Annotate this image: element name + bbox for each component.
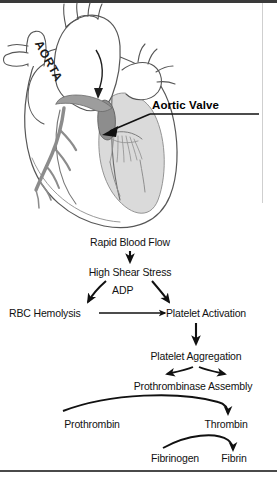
node-prothrombin: Prothrombin	[64, 418, 120, 430]
node-rapid-blood-flow: Rapid Blood Flow	[90, 236, 170, 248]
node-platelet-activation: Platelet Activation	[166, 307, 246, 319]
edge-prothrombin-to-thrombin	[63, 395, 228, 414]
edge-shear-to-activation	[152, 281, 169, 302]
node-rbc-hemolysis: RBC Hemolysis	[9, 307, 81, 319]
node-prothrombinase-assembly: Prothrombinase Assembly	[134, 380, 253, 392]
figure-canvas: AORTA Aortic Valve Rapid Blood Flow High…	[0, 0, 277, 478]
node-fibrinogen: Fibrinogen	[151, 452, 199, 464]
node-high-shear-stress: High Shear Stress	[89, 266, 172, 278]
node-thrombin: Thrombin	[204, 418, 247, 430]
node-adp: ADP	[112, 284, 134, 296]
edge-aggregation-split-right	[199, 367, 225, 374]
edge-aggregation-split-left	[167, 367, 193, 374]
edge-shear-to-hemolysis	[88, 281, 106, 302]
edge-fibrinogen-to-fibrin	[163, 435, 233, 450]
node-fibrin: Fibrin	[221, 452, 246, 464]
node-platelet-aggregation: Platelet Aggregation	[151, 350, 242, 362]
